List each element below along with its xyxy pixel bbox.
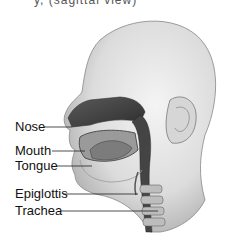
label-trachea: Trachea [15, 204, 62, 217]
label-epiglottis: Epiglottis [15, 187, 68, 200]
label-tongue: Tongue [15, 159, 58, 172]
label-mouth: Mouth [15, 144, 51, 157]
label-nose: Nose [15, 120, 45, 133]
